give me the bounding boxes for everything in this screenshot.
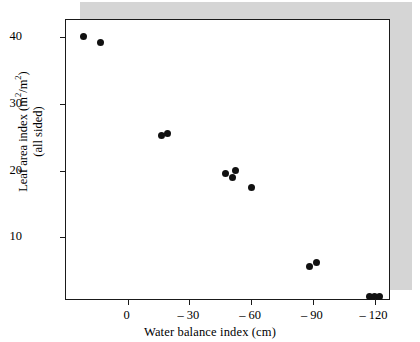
y-axis-tick [60, 171, 66, 172]
x-axis-tick [128, 299, 129, 305]
scatter-plot-figure: Water balance index (cm) Leaf area index… [0, 0, 420, 342]
y-axis-title: Leaf area index (m2/m2) (all sided) [16, 32, 45, 232]
data-point [164, 130, 171, 137]
plot-frame [65, 19, 390, 300]
y-axis-title-line2: (all sided) [30, 32, 45, 232]
y-axis-tick [60, 237, 66, 238]
data-point [97, 39, 104, 46]
data-point [229, 174, 236, 181]
x-axis-tick-label: – 90 [282, 309, 342, 322]
x-axis-tick [375, 299, 376, 305]
y-axis-tick [60, 104, 66, 105]
x-axis-tick-label: – 60 [220, 309, 280, 322]
y-axis-title-part-c: ) [16, 71, 30, 75]
x-axis-tick-label: – 30 [158, 309, 218, 322]
data-point [248, 184, 255, 191]
y-axis-tick-label: 20 [0, 164, 22, 177]
data-point [376, 293, 383, 300]
plot-area [66, 20, 389, 299]
y-axis-title-part-a: Leaf area index (m [16, 97, 30, 192]
x-axis-tick-label: 0 [97, 309, 157, 322]
y-axis-title-sup-b: 2 [13, 75, 23, 79]
x-axis-tick [189, 299, 190, 305]
y-axis-title-part-b: /m [16, 80, 30, 93]
y-axis-tick-label: 10 [0, 230, 22, 243]
data-point [80, 33, 87, 40]
x-axis-title: Water balance index (cm) [0, 325, 420, 340]
y-axis-tick [60, 37, 66, 38]
x-axis-tick-label: – 120 [344, 309, 404, 322]
data-point [306, 263, 313, 270]
data-point [232, 167, 239, 174]
x-axis-tick [251, 299, 252, 305]
data-point [313, 259, 320, 266]
data-point [222, 170, 229, 177]
y-axis-tick-label: 30 [0, 97, 22, 110]
x-axis-tick [313, 299, 314, 305]
y-axis-tick-label: 40 [0, 30, 22, 43]
